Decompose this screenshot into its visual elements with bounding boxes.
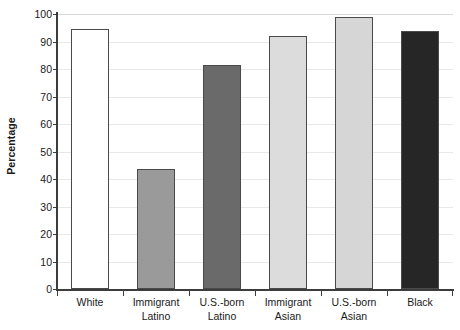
x-axis-tick-label: U.S.-bornAsian xyxy=(321,296,387,323)
y-axis-tick-label: 80 xyxy=(24,63,52,75)
x-axis-tick-label-line2: Latino xyxy=(123,310,189,324)
x-axis-tick-label-line1: Black xyxy=(407,296,433,308)
y-axis-tick-label: 20 xyxy=(24,228,52,240)
gridline xyxy=(57,262,453,263)
bar-immigrant-latino xyxy=(137,169,175,289)
y-axis-tick-label: 0 xyxy=(24,283,52,295)
x-axis-tick-label-line2: Asian xyxy=(321,310,387,324)
x-axis-tick-label-line2: Latino xyxy=(189,310,255,324)
gridline xyxy=(57,234,453,235)
y-axis-tick-label: 100 xyxy=(24,8,52,20)
gridline xyxy=(57,97,453,98)
y-axis-tick-labels: 0102030405060708090100 xyxy=(20,14,52,289)
y-axis-line xyxy=(56,12,58,291)
plot-area xyxy=(57,14,453,289)
bar-black xyxy=(401,31,439,290)
y-axis-tick-label: 60 xyxy=(24,118,52,130)
y-axis-title-text: Percentage xyxy=(5,117,17,175)
y-axis-tick-label: 50 xyxy=(24,146,52,158)
x-axis-tick-label-line1: Immigrant xyxy=(133,296,180,308)
gridline xyxy=(57,179,453,180)
y-axis-tick-label: 90 xyxy=(24,36,52,48)
bar-white xyxy=(71,29,109,289)
gridline xyxy=(57,152,453,153)
x-axis-tick-label-line2: Asian xyxy=(255,310,321,324)
x-axis-tick-label-line1: U.S.-born xyxy=(200,296,245,308)
x-axis-tick-labels: WhiteImmigrantLatinoU.S.-bornLatinoImmig… xyxy=(57,296,453,330)
bar-u-s-born-asian xyxy=(335,17,373,289)
gridline xyxy=(57,124,453,125)
x-axis-tick-label-line1: Immigrant xyxy=(265,296,312,308)
y-axis-tick-label: 10 xyxy=(24,256,52,268)
bar-chart: Percentage 0102030405060708090100 WhiteI… xyxy=(0,0,460,330)
bar-u-s-born-latino xyxy=(203,65,241,289)
y-axis-tick-label: 30 xyxy=(24,201,52,213)
y-axis-tick-label: 40 xyxy=(24,173,52,185)
x-axis-tick-label-line1: U.S.-born xyxy=(332,296,377,308)
gridline xyxy=(57,69,453,70)
x-axis-tick-label: ImmigrantAsian xyxy=(255,296,321,323)
y-axis-tick-label: 70 xyxy=(24,91,52,103)
gridline xyxy=(57,42,453,43)
x-axis-tick-label: U.S.-bornLatino xyxy=(189,296,255,323)
gridline xyxy=(57,14,453,15)
x-axis-tick-label: White xyxy=(57,296,123,310)
x-axis-tick-label: Black xyxy=(387,296,453,310)
x-axis-tick-label: ImmigrantLatino xyxy=(123,296,189,323)
x-axis-tick-label-line1: White xyxy=(77,296,104,308)
bar-immigrant-asian xyxy=(269,36,307,289)
gridline xyxy=(57,207,453,208)
y-axis-title: Percentage xyxy=(0,0,22,292)
